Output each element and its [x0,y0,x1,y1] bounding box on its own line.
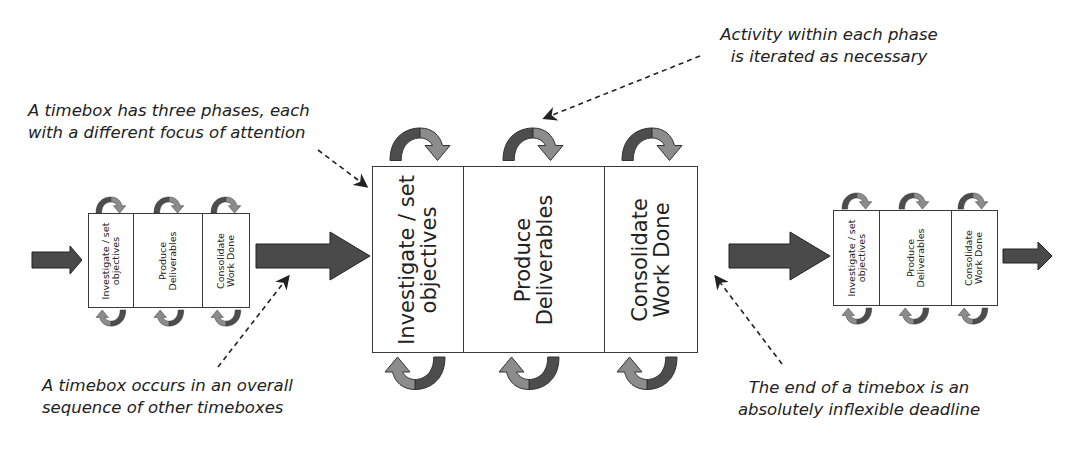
callout-three-phases: A timebox has three phases, each with a … [28,100,310,144]
phase-investigate: Investigate / set objectives [373,167,464,352]
pointer-three-phases [318,150,366,186]
phase-label: Consolidate Work Done [629,198,673,322]
flow-arrow-current-to-next [729,232,830,280]
phase-produce: Produce Deliverables [464,167,604,352]
phase-label: Produce Deliverables [512,194,556,325]
phase-consolidate: Consolidate Work Done [952,211,997,305]
phase-label: Produce Deliverables [906,228,926,287]
phase-label: Investigate / set objectives [847,220,867,297]
callout-sequence: A timebox occurs in an overall sequence … [42,375,293,419]
phase-investigate: Investigate / set objectives [834,211,880,305]
phase-produce: Produce Deliverables [134,214,202,307]
timebox-next: Investigate / set objectives Produce Del… [833,210,998,306]
phase-consolidate: Consolidate Work Done [605,167,697,352]
phase-consolidate: Consolidate Work Done [203,214,249,307]
phase-produce: Produce Deliverables [880,211,951,305]
phase-investigate: Investigate / set objectives [89,214,134,307]
timebox-previous: Investigate / set objectives Produce Del… [88,213,250,308]
callout-iterated: Activity within each phase is iterated a… [720,24,937,68]
phase-label: Investigate / set objectives [101,222,121,299]
pointer-iterated [545,56,700,118]
phase-label: Consolidate Work Done [964,230,984,286]
flow-arrow-previous-to-current [256,232,370,280]
phase-label: Investigate / set objectives [396,175,440,345]
phase-label: Consolidate Work Done [216,233,236,289]
phase-label: Produce Deliverables [158,231,178,290]
timebox-current: Investigate / set objectives Produce Del… [372,166,698,353]
pointer-deadline [716,277,782,364]
timebox-diagram: A timebox has three phases, each with a … [0,0,1073,451]
callout-deadline: The end of a timebox is an absolutely in… [738,377,980,421]
flow-arrow-in [32,246,82,274]
flow-arrow-out [1003,242,1052,270]
